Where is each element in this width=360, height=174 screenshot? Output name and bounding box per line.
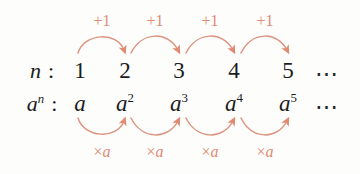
top-arrows-group	[78, 36, 287, 53]
an-cell-5-base: a	[279, 91, 291, 116]
an-cell-2: a2	[116, 91, 134, 117]
an-cell-2-exponent: 2	[128, 91, 134, 105]
top-operation-operand-2: 1	[156, 12, 164, 29]
top-operation-label-3: +1	[201, 12, 218, 30]
row-label-an-symbol: a	[27, 91, 38, 116]
bottom-arrow-1	[78, 118, 124, 134]
top-arrow-4	[241, 36, 287, 53]
an-cell-4-exponent: 4	[237, 91, 243, 105]
n-cell-1: 1	[74, 58, 86, 84]
bottom-operation-symbol-3: ×	[201, 143, 210, 160]
row-label-n-symbol: n	[30, 58, 41, 83]
bottom-operation-label-3: ×a	[201, 143, 218, 161]
bottom-operation-label-2: ×a	[146, 143, 163, 161]
bottom-operation-operand-4: a	[266, 143, 274, 160]
top-operation-label-2: +1	[146, 12, 163, 30]
bottom-operation-label-4: ×a	[256, 143, 273, 161]
top-operation-operand-1: 1	[103, 12, 111, 29]
an-row-ellipsis: ⋯	[315, 93, 340, 120]
bottom-arrow-2	[131, 118, 178, 135]
top-operation-symbol-2: +	[146, 12, 155, 29]
n-cell-5: 5	[282, 58, 294, 84]
bottom-operation-operand-1: a	[103, 143, 111, 160]
top-operation-symbol-1: +	[93, 12, 102, 29]
an-cell-4: a4	[225, 91, 243, 117]
arrow-layer	[0, 0, 360, 174]
row-label-n: n:	[30, 58, 54, 84]
bottom-operation-symbol-4: ×	[256, 143, 265, 160]
n-cell-3: 3	[173, 58, 185, 84]
an-cell-1-base: a	[74, 91, 86, 116]
an-cell-3-base: a	[170, 91, 182, 116]
bottom-operation-operand-2: a	[156, 143, 164, 160]
bottom-operation-symbol-1: ×	[93, 143, 102, 160]
an-cell-3-exponent: 3	[182, 91, 188, 105]
top-operation-symbol-3: +	[201, 12, 210, 29]
bottom-operation-operand-3: a	[211, 143, 219, 160]
top-operation-operand-4: 1	[266, 12, 274, 29]
n-row-ellipsis: ⋯	[315, 60, 340, 87]
top-arrow-3	[186, 36, 233, 53]
top-operation-label-4: +1	[256, 12, 273, 30]
sequence-correspondence-diagram: +1 +1 +1 +1 n: 1 2 3 4 5 ⋯ an: a a2 a3 a…	[0, 0, 360, 174]
n-cell-4: 4	[228, 58, 240, 84]
bottom-operation-label-1: ×a	[93, 143, 110, 161]
an-cell-3: a3	[170, 91, 188, 117]
top-operation-operand-3: 1	[211, 12, 219, 29]
top-arrow-2	[131, 36, 178, 53]
an-cell-5-exponent: 5	[291, 91, 297, 105]
row-label-an-separator: :	[44, 91, 57, 116]
an-cell-4-base: a	[225, 91, 237, 116]
n-cell-2: 2	[119, 58, 131, 84]
bottom-arrow-3	[186, 118, 233, 135]
an-cell-2-base: a	[116, 91, 128, 116]
top-operation-symbol-4: +	[256, 12, 265, 29]
row-label-an: an:	[27, 91, 58, 117]
top-arrow-1	[78, 37, 124, 53]
an-cell-1: a	[74, 91, 86, 117]
bottom-arrow-4	[241, 118, 287, 135]
top-operation-label-1: +1	[93, 12, 110, 30]
bottom-arrows-group	[78, 118, 287, 135]
bottom-operation-symbol-2: ×	[146, 143, 155, 160]
an-cell-5: a5	[279, 91, 297, 117]
row-label-n-separator: :	[41, 58, 54, 83]
